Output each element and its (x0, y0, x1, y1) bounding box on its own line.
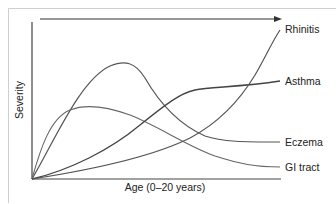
age-arrow (40, 16, 282, 22)
eczema-curve (32, 63, 280, 179)
x-axis-label: Age (0–20 years) (125, 181, 206, 193)
rhinitis-label: Rhinitis (285, 23, 319, 35)
figure-frame (9, 9, 336, 204)
gi-tract-curve (32, 107, 280, 179)
allergic-march-figure: Severity Age (0–20 years) Rhinitis Asthm… (0, 0, 336, 203)
y-axis-label: Severity (13, 80, 25, 119)
asthma-label: Asthma (285, 75, 321, 87)
gi-tract-label: GI tract (285, 161, 320, 173)
rhinitis-curve (32, 30, 280, 179)
eczema-label: Eczema (285, 136, 323, 148)
